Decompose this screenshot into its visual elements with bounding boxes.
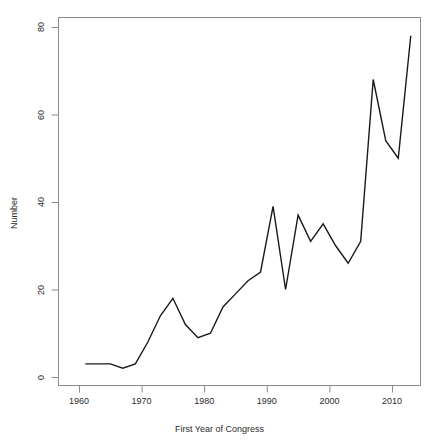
x-tick-label: 1980	[184, 396, 224, 406]
x-tick-label: 1970	[122, 396, 162, 406]
data-series-line	[85, 36, 411, 369]
y-tick-label: 80	[36, 15, 48, 39]
x-tick-label: 1990	[247, 396, 287, 406]
x-axis-ticks	[80, 386, 393, 393]
chart-container: Number First Year of Congress 020406080 …	[0, 0, 439, 448]
y-tick-label: 20	[36, 278, 48, 302]
plot-frame	[59, 18, 421, 386]
y-tick-label: 0	[36, 365, 48, 389]
y-tick-label: 60	[36, 103, 48, 127]
plot-svg	[0, 0, 439, 448]
y-tick-label: 40	[36, 190, 48, 214]
x-tick-label: 1960	[59, 396, 99, 406]
x-tick-label: 2000	[309, 396, 349, 406]
y-axis-ticks	[52, 28, 59, 378]
x-tick-label: 2010	[372, 396, 412, 406]
